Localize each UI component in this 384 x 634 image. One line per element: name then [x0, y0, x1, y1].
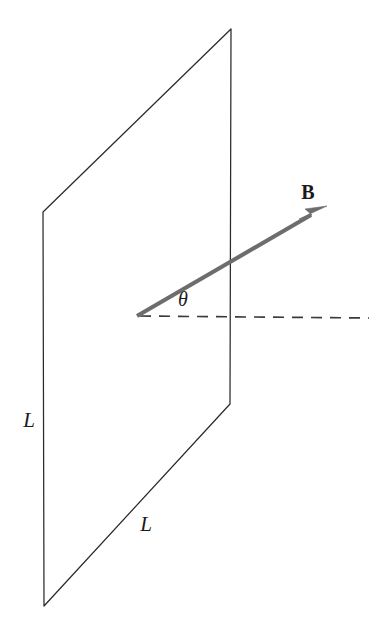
physics-diagram: L L θ B — [0, 0, 384, 634]
label-angle-theta: θ — [178, 288, 188, 310]
label-side-left: L — [22, 408, 35, 432]
loop-plane-face — [43, 29, 231, 606]
figure-canvas: L L θ B — [0, 0, 384, 634]
label-magnetic-field-b: B — [301, 181, 314, 203]
b-vector-arrowhead — [299, 206, 327, 219]
label-side-bottom: L — [139, 512, 152, 536]
